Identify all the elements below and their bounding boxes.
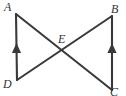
vertex-label-d: D bbox=[3, 78, 12, 90]
geometry-canvas bbox=[0, 0, 126, 96]
geometry-figure: A B E D C bbox=[0, 0, 126, 96]
vertex-label-b: B bbox=[111, 3, 118, 15]
arrow-mark-BC-icon bbox=[107, 43, 116, 53]
vertex-label-e: E bbox=[58, 33, 65, 45]
vertex-label-c: C bbox=[110, 86, 118, 96]
arrow-mark-AD-icon bbox=[12, 43, 21, 53]
vertex-label-a: A bbox=[4, 1, 11, 13]
